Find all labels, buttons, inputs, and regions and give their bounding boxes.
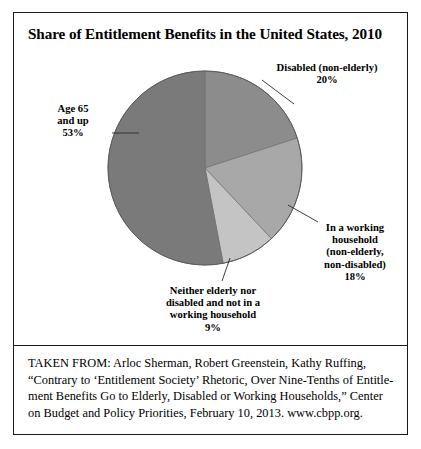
pie-label-age65-line2: and up — [57, 115, 89, 126]
pie-label-disabled: Disabled (non-elderly) 20% — [243, 62, 411, 86]
pie-label-working-value: 18% — [344, 271, 365, 282]
pie-slices — [108, 71, 302, 265]
pie-label-disabled-line1: Disabled (non-elderly) — [277, 62, 378, 73]
pie-chart-area: Disabled (non-elderly) 20% Age 65 and up… — [0, 0, 421, 345]
pie-label-neither: Neither elderly nor disabled and not in … — [136, 285, 290, 334]
citation-line-1: TAKEN FROM: Arloc Sherman, Robert Greens… — [28, 355, 396, 372]
pie-label-working-line4: non-disabled) — [324, 259, 386, 270]
pie-label-age65-line1: Age 65 — [58, 103, 89, 114]
pie-label-neither-line3: working household — [170, 309, 256, 320]
pie-label-working-line3: (non-elderly, — [326, 246, 383, 257]
leader-line-working — [288, 205, 318, 222]
pie-label-disabled-value: 20% — [316, 74, 337, 85]
pie-label-neither-line1: Neither elderly nor — [170, 285, 256, 296]
pie-label-working-household: In a working household (non-elderly, non… — [300, 222, 410, 283]
pie-label-working-line2: household — [332, 234, 378, 245]
citation-line-4: on Budget and Policy Priorities, Februar… — [28, 405, 396, 422]
pie-label-working-line1: In a working — [326, 222, 384, 233]
pie-label-neither-value: 9% — [205, 322, 221, 333]
section-divider — [14, 345, 407, 346]
pie-label-age65: Age 65 and up 53% — [22, 103, 124, 140]
pie-label-age65-value: 53% — [62, 127, 83, 138]
source-citation: TAKEN FROM: Arloc Sherman, Robert Greens… — [28, 355, 396, 421]
pie-label-neither-line2: disabled and not in a — [166, 297, 260, 308]
citation-line-3: ment Benefits Go to Elderly, Disabled or… — [28, 388, 396, 405]
citation-line-2: “Contrary to ‘Entitlement Society’ Rheto… — [28, 372, 396, 389]
